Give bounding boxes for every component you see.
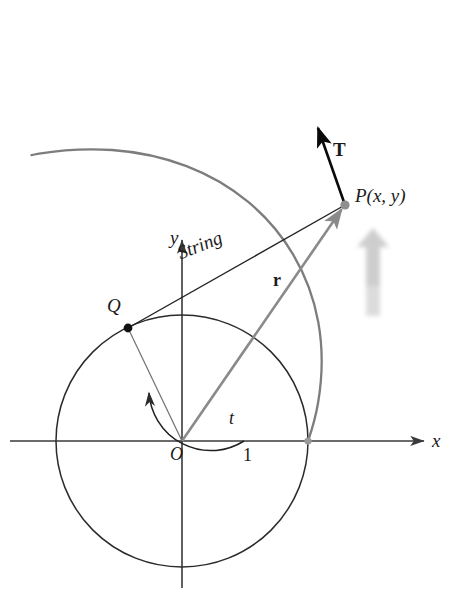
tangent-vector-label: T (333, 140, 346, 159)
point-q-label: Q (107, 296, 121, 315)
point-p-marker (340, 200, 349, 209)
involute-start-marker (304, 437, 311, 444)
radius-vector-label: r (273, 271, 281, 289)
unit-length-label: 1 (243, 446, 252, 464)
point-p-label: P(x, y) (355, 186, 406, 205)
angle-t-label: t (229, 409, 234, 427)
x-axis-label: x (432, 431, 440, 450)
involute-curve (32, 149, 322, 441)
figure-canvas: y x O 1 t Q P(x, y) T r String (0, 0, 461, 606)
origin-label: O (170, 445, 183, 463)
axes (10, 240, 424, 588)
motion-arrow (357, 228, 389, 316)
radius-oq (128, 328, 182, 441)
involute-diagram-svg (0, 0, 461, 606)
point-q-marker (124, 324, 133, 333)
string-segment (128, 205, 345, 328)
